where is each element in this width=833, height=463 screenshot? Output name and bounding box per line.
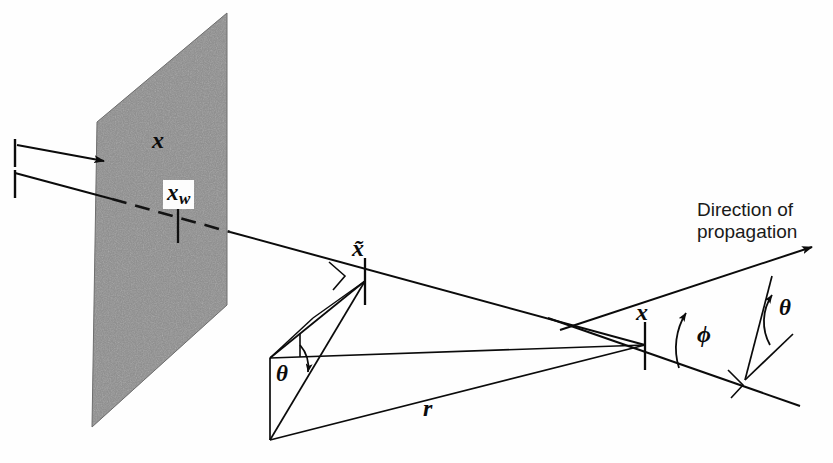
stippled-plane — [92, 13, 227, 427]
normal-ray — [745, 276, 793, 380]
label-theta-left: θ — [276, 362, 288, 385]
x-tilde-marker — [329, 258, 365, 305]
label-r: r — [423, 396, 432, 420]
label-direction-of-propagation: Direction ofpropagation — [697, 199, 797, 244]
label-x-center: x — [636, 300, 648, 324]
label-x-axis: x — [152, 128, 164, 152]
label-phi: ϕ — [697, 322, 711, 346]
direction-line-1: Direction of — [697, 199, 793, 220]
projection-lines — [270, 281, 645, 440]
theta-left-arc — [300, 345, 308, 372]
label-x-tilde: x̃ — [352, 236, 364, 260]
label-x-wall-subscript: w — [179, 189, 191, 208]
phi-arc — [676, 313, 686, 368]
label-theta-right: θ — [779, 296, 791, 319]
direction-line-2: propagation — [697, 221, 797, 242]
label-x-wall-base: x — [167, 180, 179, 205]
figure-root: x xw x̃ x r θ θ ϕ Direction ofpropagatio… — [0, 0, 833, 463]
propagation-ray — [560, 247, 812, 330]
reference-ray — [548, 318, 800, 406]
label-x-wall: xw — [163, 180, 194, 209]
x-direction-arrow — [17, 145, 104, 161]
